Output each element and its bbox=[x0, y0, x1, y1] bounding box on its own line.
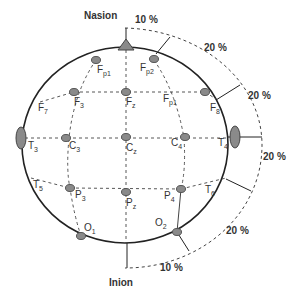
label-p3: P3 bbox=[75, 189, 86, 202]
label-fz: Fz bbox=[126, 96, 136, 109]
electrode-pz[interactable] bbox=[122, 189, 131, 196]
label-t6: T6 bbox=[205, 184, 215, 197]
eeg-electrode-diagram: Nasion Inion 10 % 20 % 20 % 20 % 20 % 10… bbox=[0, 0, 296, 298]
label-t3: T3 bbox=[28, 140, 38, 153]
electrode-o2[interactable] bbox=[173, 229, 182, 236]
head-outline bbox=[22, 47, 228, 243]
label-t4: T4 bbox=[218, 137, 228, 150]
pct-upper-right: 20 % bbox=[204, 42, 227, 53]
electrode-fp1[interactable] bbox=[92, 57, 101, 64]
label-f7: F7 bbox=[38, 102, 48, 115]
label-t5: T5 bbox=[33, 179, 43, 192]
electrode-f4[interactable] bbox=[201, 89, 210, 96]
electrode-c4[interactable] bbox=[181, 134, 190, 141]
tick-f8 bbox=[216, 85, 240, 100]
nasion-marker bbox=[118, 39, 134, 50]
p4-o2-line bbox=[177, 189, 181, 232]
label-o1: O1 bbox=[84, 222, 96, 235]
pct-right-upper: 20 % bbox=[248, 90, 271, 101]
label-o2: O2 bbox=[155, 217, 167, 230]
label-fp2: Fp2 bbox=[140, 62, 154, 76]
tick-fp2 bbox=[156, 37, 170, 54]
label-cz: Cz bbox=[126, 142, 137, 155]
electrode-p4[interactable] bbox=[177, 186, 186, 193]
label-pz: Pz bbox=[126, 197, 137, 210]
label-f3: F3 bbox=[74, 96, 84, 109]
electrode-p3[interactable] bbox=[66, 185, 75, 192]
pct-lower-right: 20 % bbox=[226, 225, 249, 236]
label-fp1: Fp1 bbox=[97, 64, 111, 78]
pct-bottom: 10 % bbox=[160, 262, 183, 273]
label-c3: C3 bbox=[69, 140, 80, 153]
electrode-f3[interactable] bbox=[70, 89, 79, 96]
tick-t6 bbox=[226, 179, 251, 191]
label-f4: Fp1 bbox=[163, 93, 177, 107]
electrode-fp2[interactable] bbox=[150, 56, 159, 63]
inion-label: Inion bbox=[109, 277, 133, 288]
right-ear-marker bbox=[230, 126, 240, 148]
electrode-cz[interactable] bbox=[122, 134, 131, 141]
pct-top: 10 % bbox=[135, 14, 158, 25]
left-ear-marker bbox=[16, 127, 26, 149]
label-c4: C4 bbox=[171, 137, 182, 150]
electrode-fz[interactable] bbox=[122, 89, 131, 96]
label-p4: P4 bbox=[164, 190, 175, 203]
pct-right-mid: 20 % bbox=[263, 151, 286, 162]
nasion-label: Nasion bbox=[84, 10, 117, 21]
electrode-o1[interactable] bbox=[77, 233, 86, 240]
